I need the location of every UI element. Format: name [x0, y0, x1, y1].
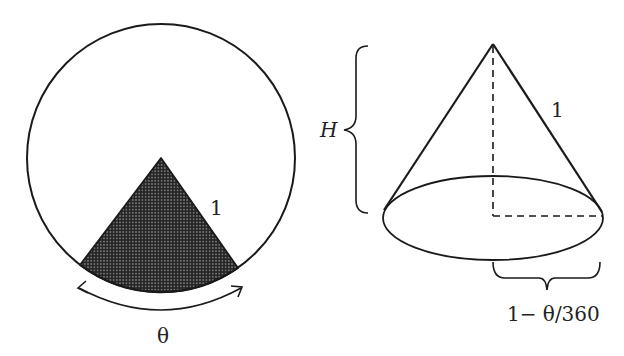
- base-radius-brace: [493, 262, 600, 290]
- height-brace: [344, 46, 368, 213]
- radius-label: 1: [210, 196, 223, 220]
- cone-panel: 1 H 1− θ/360: [319, 44, 603, 326]
- slant-label: 1: [551, 98, 564, 122]
- height-label: H: [319, 118, 338, 142]
- circle-panel: 1 θ: [27, 24, 295, 348]
- cone-base-ellipse: [383, 176, 603, 260]
- angle-label: θ: [157, 324, 169, 348]
- cone-diagram: 1 θ 1 H 1− θ/360: [0, 0, 624, 356]
- cone-right-edge: [493, 44, 602, 212]
- cone-left-edge: [384, 44, 493, 210]
- shaded-sector: [80, 158, 238, 292]
- base-radius-label: 1− θ/360: [507, 302, 600, 326]
